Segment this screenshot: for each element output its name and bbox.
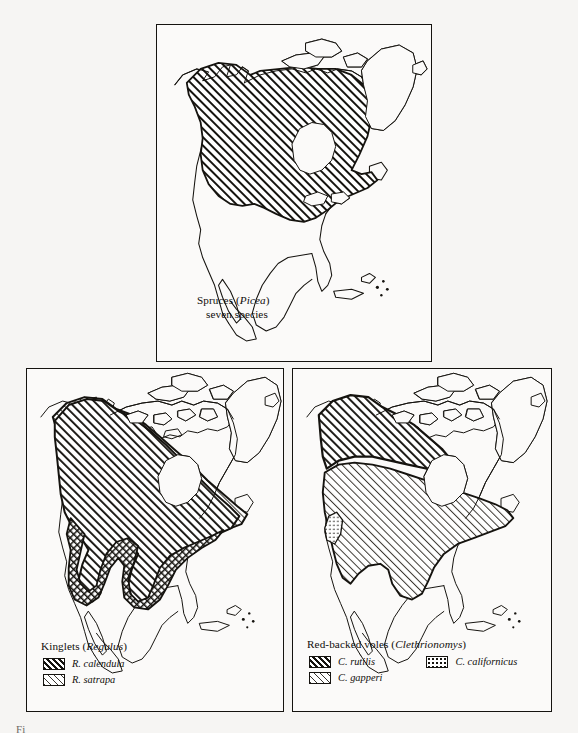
figure-label: Fi bbox=[16, 723, 26, 733]
voles-legend-column-right: C. californicus bbox=[426, 655, 517, 684]
swatch-light-hatch-icon bbox=[309, 672, 331, 684]
kinglets-legend: R. calendula R. satrapa bbox=[43, 657, 125, 686]
kinglets-legend-column: R. calendula R. satrapa bbox=[43, 657, 125, 686]
kinglet-calendula-range bbox=[55, 399, 240, 607]
swatch-dense-hatch-icon bbox=[309, 656, 331, 668]
voles-legend: C. rutilis C. gapperi C. californicus bbox=[309, 655, 517, 684]
legend-label-c-gapperi: C. gapperi bbox=[338, 672, 382, 683]
legend-label-c-rutilis: C. rutilis bbox=[338, 656, 375, 667]
legend-label-r-satrapa: R. satrapa bbox=[72, 674, 115, 685]
swatch-dense-hatch-icon bbox=[43, 658, 65, 670]
swatch-stipple-icon bbox=[426, 656, 448, 668]
spruces-caption: Spruces (Picea) seven species bbox=[197, 293, 270, 321]
spruces-caption-line2: seven species bbox=[197, 307, 270, 321]
legend-item-c-californicus: C. californicus bbox=[426, 655, 517, 668]
legend-item-c-gapperi: C. gapperi bbox=[309, 671, 382, 684]
voles-caption: Red-backed voles (Clethrionomys) bbox=[307, 637, 466, 651]
legend-item-r-calendula: R. calendula bbox=[43, 657, 125, 670]
voles-legend-column-left: C. rutilis C. gapperi bbox=[309, 655, 382, 684]
legend-item-r-satrapa: R. satrapa bbox=[43, 673, 125, 686]
swatch-light-hatch-icon bbox=[43, 674, 65, 686]
vole-rutilis-range bbox=[319, 395, 452, 468]
legend-label-r-calendula: R. calendula bbox=[72, 658, 125, 669]
map-panel-spruces: map Spruces (Picea) seven species bbox=[156, 24, 432, 362]
kinglets-caption: Kinglets (Regulus) bbox=[41, 639, 127, 653]
species-distribution-figure: map Spruces (Picea) seven species bbox=[0, 0, 578, 733]
map-panel-kinglets: Kinglets (Regulus) R. calendula R. satra… bbox=[26, 368, 284, 712]
legend-label-c-californicus: C. californicus bbox=[455, 656, 517, 667]
legend-item-c-rutilis: C. rutilis bbox=[309, 655, 382, 668]
spruces-caption-line1: Spruces (Picea) bbox=[197, 294, 270, 306]
map-panel-voles: Red-backed voles (Clethrionomys) C. ruti… bbox=[292, 368, 552, 712]
